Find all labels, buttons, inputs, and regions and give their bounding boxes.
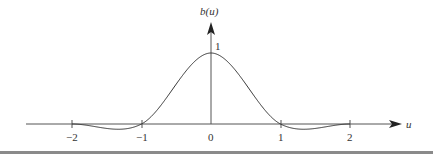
y-axis-label: b(u) (200, 5, 219, 18)
tick-label-neg2: −2 (66, 131, 78, 143)
tick-label-1: 1 (278, 131, 284, 143)
bottom-rule (0, 151, 433, 154)
peak-label: 1 (215, 40, 221, 52)
x-axis-label: u (406, 118, 412, 130)
tick-label-neg1: −1 (136, 131, 148, 143)
kernel-chart: u b(u) −2 −1 0 1 2 1 (0, 0, 433, 154)
tick-label-0: 0 (208, 131, 214, 143)
tick-label-2: 2 (347, 131, 353, 143)
